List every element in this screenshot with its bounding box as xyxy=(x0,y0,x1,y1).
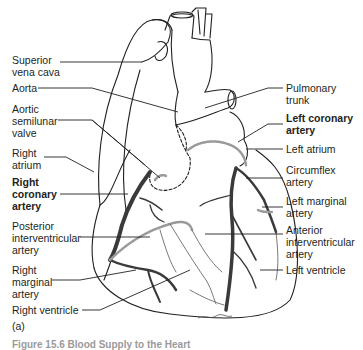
label-line: Left marginal xyxy=(286,195,347,207)
label-line: semilunar xyxy=(12,115,58,127)
label-aortic-semilunar-valve: Aortic semilunar valve xyxy=(12,103,58,139)
label-line: trunk xyxy=(286,94,336,106)
label-line: vena cava xyxy=(12,66,60,78)
label-line: Anterior xyxy=(286,224,355,236)
label-line: artery xyxy=(12,244,81,256)
label-line: coronary xyxy=(12,188,57,200)
label-line: Right ventricle xyxy=(12,304,79,316)
label-line: artery xyxy=(286,124,353,136)
figure-caption: Figure 15.6 Blood Supply to the Heart xyxy=(12,339,190,350)
label-left-coronary-artery: Left coronary artery xyxy=(286,112,353,136)
label-line: artery xyxy=(286,248,355,260)
label-line: Left atrium xyxy=(286,143,336,155)
label-line: Right xyxy=(12,147,41,159)
label-right-coronary-artery: Right coronary artery xyxy=(12,176,57,212)
label-line: atrium xyxy=(12,159,41,171)
label-line: marginal xyxy=(12,276,52,288)
label-line: Left ventricle xyxy=(286,264,346,276)
label-line: Pulmonary xyxy=(286,82,336,94)
label-circumflex-artery: Circumflex artery xyxy=(286,164,336,188)
label-superior-vena-cava: Superior vena cava xyxy=(12,54,60,78)
label-line: interventricular xyxy=(286,236,355,248)
label-line: Circumflex xyxy=(286,164,336,176)
panel-label: (a) xyxy=(12,320,25,332)
label-line: artery xyxy=(12,200,57,212)
label-right-ventricle: Right ventricle xyxy=(12,304,79,316)
label-right-marginal-artery: Right marginal artery xyxy=(12,264,52,300)
label-line: Aortic xyxy=(12,103,58,115)
label-left-ventricle: Left ventricle xyxy=(286,264,346,276)
label-line: valve xyxy=(12,127,58,139)
label-line: Left coronary xyxy=(286,112,353,124)
label-line: interventricular xyxy=(12,232,81,244)
label-right-atrium: Right atrium xyxy=(12,147,41,171)
label-line: Aorta xyxy=(12,82,37,94)
label-line: Right xyxy=(12,176,57,188)
label-line: Right xyxy=(12,264,52,276)
label-anterior-interventricular-artery: Anterior interventricular artery xyxy=(286,224,355,260)
label-aorta: Aorta xyxy=(12,82,37,94)
label-posterior-interventricular-artery: Posterior interventricular artery xyxy=(12,220,81,256)
label-line: artery xyxy=(286,176,336,188)
label-line: artery xyxy=(12,288,52,300)
label-line: Superior xyxy=(12,54,60,66)
label-left-atrium: Left atrium xyxy=(286,143,336,155)
label-pulmonary-trunk: Pulmonary trunk xyxy=(286,82,336,106)
label-left-marginal-artery: Left marginal artery xyxy=(286,195,347,219)
label-line: artery xyxy=(286,207,347,219)
label-line: Posterior xyxy=(12,220,81,232)
